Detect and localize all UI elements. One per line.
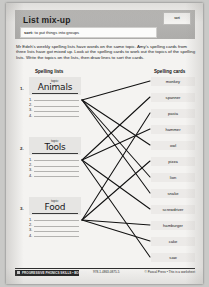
publisher-mark-icon: [17, 271, 20, 274]
footer-book-block: PROGRESSIVE PHONICS SKILLS • BOOK 3: [15, 270, 79, 276]
footer-copyright: © Pascal Press • This is a worksheet: [145, 270, 195, 274]
footer-book-title: PROGRESSIVE PHONICS SKILLS • BOOK 3: [22, 271, 86, 275]
worksheet-page: List mix-up sort sort: to put things int…: [6, 3, 203, 284]
footer-isbn: 978-1-4863-0875-5: [93, 270, 120, 274]
page-footer: PROGRESSIVE PHONICS SKILLS • BOOK 3 978-…: [15, 268, 195, 276]
matching-lines: [6, 3, 203, 284]
footer-rule: [15, 268, 195, 269]
